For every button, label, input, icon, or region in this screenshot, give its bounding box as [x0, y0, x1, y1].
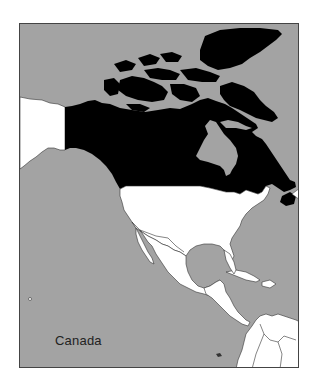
- hawaii-islands: [29, 298, 32, 301]
- map-label: Canada: [55, 333, 102, 348]
- north-america-map: [20, 24, 299, 368]
- map-frame: Canada: [19, 23, 299, 368]
